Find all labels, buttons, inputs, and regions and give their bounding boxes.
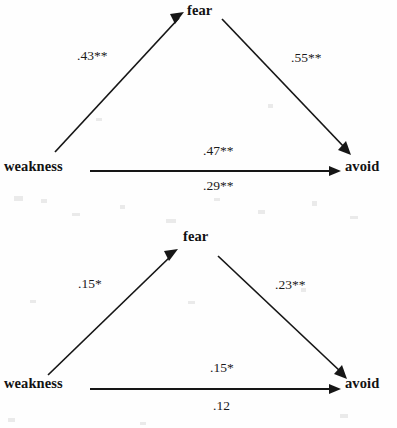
- coefficient-path-b-bottom: .23**: [275, 277, 305, 293]
- arrow-fear-to-avoid: [218, 256, 347, 379]
- figure-container: weakness fear avoid .43** .55** .47** .2…: [0, 0, 397, 428]
- panel-top-arrows: [0, 0, 397, 214]
- node-fear-bottom: fear: [183, 228, 208, 245]
- coefficient-path-a-bottom: .15*: [78, 276, 102, 292]
- panel-bottom-arrows: [0, 214, 397, 428]
- node-avoid-bottom: avoid: [345, 375, 379, 392]
- arrow-weakness-to-fear: [55, 12, 184, 152]
- arrow-weakness-to-avoid-direct: [90, 384, 341, 394]
- coefficient-path-b: .55**: [291, 50, 321, 66]
- arrow-weakness-to-fear: [48, 249, 178, 375]
- mediation-panel-top: weakness fear avoid .43** .55** .47** .2…: [0, 0, 397, 214]
- arrow-weakness-to-avoid-direct: [90, 166, 341, 176]
- arrow-fear-to-avoid: [222, 19, 351, 155]
- mediation-panel-bottom: [0, 214, 397, 428]
- coefficient-path-c-total: .47**: [203, 143, 233, 159]
- node-avoid: avoid: [345, 158, 379, 175]
- node-fear: fear: [187, 2, 212, 19]
- coefficient-path-c-total-bottom: .15*: [210, 360, 234, 376]
- coefficient-path-a: .43**: [77, 48, 107, 64]
- node-weakness-bottom: weakness: [4, 375, 63, 392]
- coefficient-path-c-prime: .29**: [203, 178, 233, 194]
- node-weakness: weakness: [4, 158, 63, 175]
- coefficient-path-c-prime-bottom: .12: [213, 398, 230, 414]
